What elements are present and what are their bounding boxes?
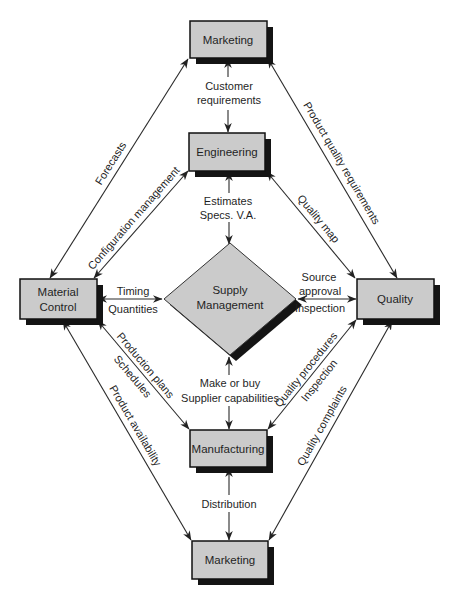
edge-label: Timing [117,285,150,297]
node-label-material-control-line1: Material [38,286,79,298]
node-engineering: Engineering [189,133,271,177]
edge-label: Inspection [295,302,345,314]
node-label-material-control-line2: Control [39,301,76,313]
node-manufacturing: Manufacturing [190,430,273,473]
node-label-quality: Quality [377,293,413,305]
edge-label: approval [299,285,341,297]
node-label-marketing-bottom: Marketing [205,554,256,566]
node-label-supply-line1: Supply [212,284,247,296]
edge-label: Distribution [201,498,256,510]
edge-label: Customer [205,80,253,92]
edge-label: Source [302,271,337,283]
node-label-engineering: Engineering [196,146,257,158]
node-quality: Quality [357,279,440,325]
node-box [20,279,97,319]
supply-management-diagram: Marketing Engineering Material Control Q… [0,0,456,600]
edge-label: Specs. V.A. [200,209,256,221]
node-label-manufacturing: Manufacturing [192,443,265,455]
node-label-marketing-top: Marketing [203,34,254,46]
edge-label: Estimates [204,195,253,207]
edge-label: requirements [197,94,262,106]
edge-label: Supplier capabilities [181,392,279,404]
label-distribution: Distribution [201,498,256,510]
edge-label: Make or buy [200,377,261,389]
node-marketing-top: Marketing [190,21,273,64]
node-label-supply-line2: Management [196,299,264,311]
node-material-control: Material Control [20,279,103,325]
node-marketing-bottom: Marketing [192,541,274,585]
edge-label: Quantities [108,303,158,315]
